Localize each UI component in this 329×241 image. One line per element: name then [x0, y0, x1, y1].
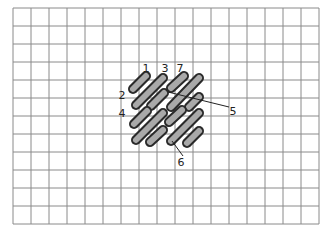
leader-line [172, 141, 183, 156]
stitch-number-label: 7 [177, 62, 184, 75]
stitch-diagram: 1372456 [0, 0, 329, 241]
stitch [187, 131, 199, 143]
stitch-group [133, 76, 199, 143]
stitch-number-label: 4 [119, 107, 126, 120]
stitch-number-label: 2 [119, 89, 126, 102]
stitch-number-label: 5 [230, 105, 237, 118]
stitch-number-label: 6 [178, 156, 185, 169]
stitch-number-label: 1 [143, 62, 150, 75]
stitch-number-label: 3 [162, 62, 169, 75]
